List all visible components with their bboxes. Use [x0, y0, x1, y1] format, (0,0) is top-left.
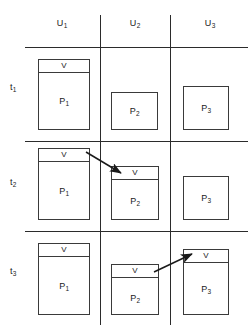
column-header-u2-subscript: 2: [137, 22, 141, 29]
process-label-subscript: 1: [65, 190, 69, 197]
token-strip-t2-p2[interactable]: V: [111, 166, 159, 180]
process-label-t2-p1: P1: [39, 186, 89, 196]
process-label-t2-p2: P2: [112, 196, 158, 206]
diagram-canvas: U1 U2 U3 t1 t2 t3 V P1 P2 P3: [0, 0, 251, 332]
process-label-t3-p3: P3: [184, 284, 228, 294]
grid-hrule-t1-t2: [25, 141, 248, 142]
process-label-subscript: 1: [65, 100, 69, 107]
row-label-t3-subscript: 3: [13, 270, 17, 277]
token-label: V: [61, 61, 66, 70]
token-strip-t1-p1[interactable]: V: [38, 59, 90, 73]
row-label-t2-subscript: 2: [13, 181, 17, 188]
token-label: V: [61, 150, 66, 159]
grid-vrule-u2-u3: [170, 15, 171, 325]
process-label-t1-p3: P3: [184, 103, 228, 113]
process-label-subscript: 2: [136, 200, 140, 207]
token-strip-t3-p3[interactable]: V: [183, 249, 229, 263]
process-label-t1-p2: P2: [112, 106, 157, 116]
process-label-subscript: 3: [207, 197, 211, 204]
process-label-text: P: [130, 106, 136, 116]
row-label-t1: t1: [10, 82, 16, 92]
column-header-u3-subscript: 3: [212, 22, 216, 29]
grid-hrule-header: [25, 47, 248, 48]
column-header-u1: U1: [42, 18, 82, 28]
process-label-subscript: 2: [136, 297, 140, 304]
process-label-subscript: 3: [207, 288, 211, 295]
token-strip-t3-p2[interactable]: V: [111, 264, 159, 278]
process-box-t2-p1[interactable]: V P1: [38, 148, 90, 220]
process-box-t2-p3[interactable]: P3: [183, 176, 229, 220]
column-header-u3-label: U: [205, 18, 212, 28]
column-header-u2-label: U: [130, 18, 137, 28]
token-label: V: [132, 168, 137, 177]
column-header-u1-label: U: [57, 18, 64, 28]
process-box-t3-p2[interactable]: V P2: [111, 264, 159, 315]
grid-vrule-u1-u2: [100, 15, 101, 325]
process-box-t1-p1[interactable]: V P1: [38, 59, 90, 130]
process-label-t1-p1: P1: [39, 96, 89, 106]
process-box-t3-p3[interactable]: V P3: [183, 249, 229, 315]
row-label-t3: t3: [10, 266, 16, 276]
process-box-t1-p2[interactable]: P2: [111, 92, 158, 130]
process-box-t2-p2[interactable]: V P2: [111, 166, 159, 220]
column-header-u1-subscript: 1: [64, 22, 68, 29]
column-header-u2: U2: [115, 18, 155, 28]
process-label-t3-p2: P2: [112, 293, 158, 303]
process-label-subscript: 3: [207, 107, 211, 114]
process-label-t3-p1: P1: [39, 281, 89, 291]
process-label-t2-p3: P3: [184, 193, 228, 203]
row-label-t2: t2: [10, 177, 16, 187]
token-label: V: [132, 266, 137, 275]
token-label: V: [203, 251, 208, 260]
process-box-t3-p1[interactable]: V P1: [38, 243, 90, 315]
column-header-u3: U3: [190, 18, 230, 28]
token-strip-t2-p1[interactable]: V: [38, 148, 90, 162]
token-label: V: [61, 245, 66, 254]
process-box-t1-p3[interactable]: P3: [183, 86, 229, 130]
process-label-subscript: 2: [136, 110, 140, 117]
token-strip-t3-p1[interactable]: V: [38, 243, 90, 257]
grid-hrule-t2-t3: [25, 231, 248, 232]
process-label-subscript: 1: [65, 285, 69, 292]
row-label-t1-subscript: 1: [13, 86, 17, 93]
